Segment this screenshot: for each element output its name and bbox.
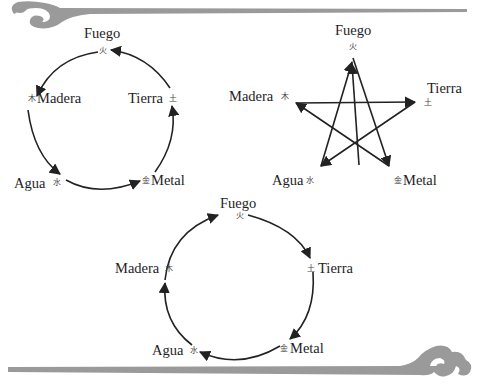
node-metal-label: Metal	[151, 172, 185, 188]
node-water-glyph: 水	[306, 176, 314, 185]
top-cloud-ornament	[12, 1, 467, 28]
node-metal-glyph: 金	[394, 176, 402, 185]
node-water-glyph: 水	[53, 178, 61, 187]
node-wood-label: Madera	[37, 90, 81, 106]
five-elements-figure: Fuego 火 木 Madera Tierra 土 Agua 水 金 Metal…	[0, 0, 479, 389]
node-earth-glyph: 土	[307, 264, 315, 273]
node-water-label: Agua	[152, 342, 183, 358]
second-cycle-arrows	[165, 215, 314, 360]
star-cycle-arrows	[296, 58, 415, 166]
node-fire-glyph: 火	[349, 42, 357, 51]
generating-cycle-arrows	[28, 50, 173, 189]
node-fire-glyph: 火	[236, 211, 244, 220]
node-metal-glyph: 金	[142, 176, 150, 185]
node-fire-label: Fuego	[220, 195, 256, 211]
node-fire-label: Fuego	[335, 22, 371, 38]
node-water-label: Agua	[14, 175, 45, 191]
node-metal-label: Metal	[290, 340, 324, 356]
node-wood-glyph: 木	[281, 92, 289, 101]
node-earth-label: Tierra	[318, 260, 353, 276]
node-metal-label: Metal	[403, 172, 437, 188]
bottom-cloud-ornament	[8, 346, 471, 377]
node-water-glyph: 水	[190, 346, 198, 355]
node-wood-glyph: 木	[165, 264, 173, 273]
node-metal-glyph: 金	[280, 344, 288, 353]
node-earth-glyph: 土	[424, 98, 432, 107]
node-fire-label: Fuego	[84, 25, 120, 41]
node-wood-label: Madera	[115, 260, 159, 276]
node-wood-label: Madera	[229, 88, 273, 104]
node-water-label: Agua	[272, 172, 303, 188]
node-fire-glyph: 火	[99, 46, 107, 55]
node-wood-glyph: 木	[28, 94, 36, 103]
node-earth-label: Tierra	[427, 80, 462, 96]
node-earth-label: Tierra	[128, 90, 163, 106]
node-earth-glyph: 土	[169, 94, 177, 103]
